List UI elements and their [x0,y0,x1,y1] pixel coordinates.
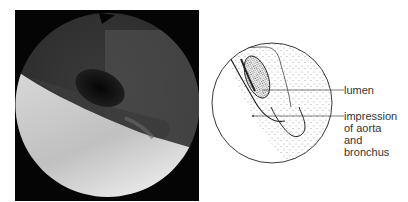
diagram-illustration [205,35,345,170]
label-impression-line-1: impression [344,110,397,122]
label-impression-line-4: bronchus [344,146,397,158]
label-impression-of-aorta-and-bronchus: impression of aorta and bronchus [344,110,397,158]
label-impression-line-2: of aorta [344,122,397,134]
endoscopic-photo [15,10,199,201]
label-impression-line-3: and [344,134,397,146]
label-lumen: lumen [344,84,374,96]
